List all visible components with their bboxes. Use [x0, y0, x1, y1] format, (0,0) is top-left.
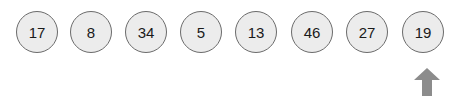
node-value: 27 [359, 24, 376, 41]
arrow-up-icon [414, 68, 440, 96]
array-node: 13 [235, 11, 277, 53]
array-node: 5 [180, 11, 222, 53]
node-value: 8 [87, 24, 95, 41]
array-node: 27 [346, 11, 388, 53]
node-value: 46 [304, 24, 321, 41]
node-value: 19 [415, 24, 432, 41]
array-node-current: 19 [402, 11, 444, 53]
array-node: 17 [16, 11, 58, 53]
node-value: 17 [29, 24, 46, 41]
array-node: 8 [70, 11, 112, 53]
array-node: 46 [291, 11, 333, 53]
node-value: 34 [138, 24, 155, 41]
node-value: 13 [248, 24, 265, 41]
array-node: 34 [125, 11, 167, 53]
node-value: 5 [197, 24, 205, 41]
